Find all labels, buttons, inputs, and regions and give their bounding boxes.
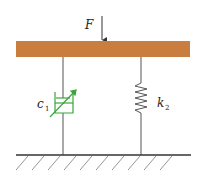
damper-element: [50, 57, 76, 155]
damper-label: c: [37, 97, 44, 111]
spring-element: [135, 57, 147, 155]
mechanical-diagram: F c 1 k 2: [0, 0, 205, 185]
rigid-bar: [16, 41, 190, 57]
damper-subscript: 1: [45, 105, 49, 113]
spring-label: k: [157, 96, 164, 110]
force-label: F: [84, 18, 94, 32]
spring-subscript: 2: [165, 104, 169, 112]
ground: [16, 155, 191, 170]
